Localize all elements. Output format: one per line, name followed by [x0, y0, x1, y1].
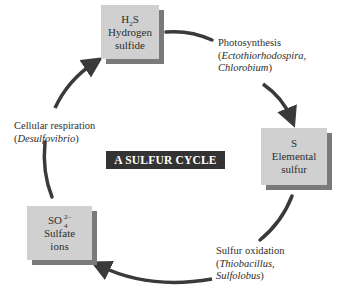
formula-so4-sub: 4 — [64, 220, 68, 233]
process-name: Cellular respiration — [14, 120, 95, 133]
arrow-so4-to-respiration — [44, 142, 52, 197]
arrow-respiration-to-h2s — [55, 63, 94, 108]
node-hydrogen-sulfide: H2S Hydrogen sulfide — [101, 5, 159, 59]
process-cellular-respiration: Cellular respiration (Desulfovibrio) — [14, 120, 95, 145]
formula-so4: SO2–4 — [48, 214, 71, 227]
node-name-line1: Elemental — [272, 150, 317, 163]
process-name: Photosynthesis — [218, 37, 306, 50]
arrow-s-to-sulfur-oxidation — [260, 196, 292, 240]
process-name: Sulfur oxidation — [216, 245, 285, 258]
arrow-sulfur-oxidation-to-so4 — [100, 266, 212, 282]
paren-close: ) — [268, 62, 272, 73]
arrow-h2s-to-photosynthesis — [166, 32, 212, 40]
formula-s: S — [291, 137, 297, 150]
node-name-line2: ions — [50, 240, 68, 253]
node-name-line1: Sulfate — [44, 227, 75, 240]
formula-so4-base: SO — [48, 214, 62, 226]
node-name-line2: sulfide — [115, 39, 145, 52]
process-sulfur-oxidation: Sulfur oxidation (Thiobacillus, Sulfolob… — [216, 245, 285, 283]
formula-h2s-tail: S — [133, 13, 139, 25]
formula-h2s-base: H — [121, 13, 129, 25]
formula-h2s: H2S — [121, 13, 139, 26]
process-organisms: Desulfovibrio — [18, 133, 76, 144]
node-name-line2: sulfur — [281, 163, 307, 176]
arrow-photosynthesis-to-s — [263, 84, 291, 118]
process-organisms: Ectothiorhodospira, — [222, 50, 307, 61]
diagram-title: A SULFUR CYCLE — [106, 151, 225, 169]
node-elemental-sulfur: S Elemental sulfur — [261, 128, 327, 185]
paren-close: ) — [75, 133, 79, 144]
process-photosynthesis: Photosynthesis (Ectothiorhodospira, Chlo… — [218, 37, 306, 75]
node-sulfate-ions: SO2–4 Sulfate ions — [27, 206, 92, 260]
process-organisms: Chlorobium — [218, 62, 268, 73]
process-organisms: Sulfolobus — [216, 270, 260, 281]
paren-close: ) — [260, 270, 264, 281]
process-organisms: Thiobacillus, — [220, 258, 275, 269]
node-name-line1: Hydrogen — [108, 26, 152, 39]
